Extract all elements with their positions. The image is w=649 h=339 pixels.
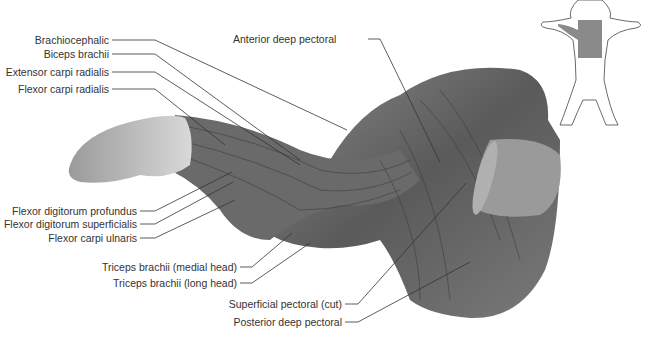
label-flexor-carpi-radialis: Flexor carpi radialis	[18, 83, 109, 95]
label-brachiocephalic: Brachiocephalic	[35, 34, 109, 46]
label-flexor-carpi-ulnaris: Flexor carpi ulnaris	[48, 232, 137, 244]
label-anterior-deep-pectoral: Anterior deep pectoral	[233, 33, 336, 45]
label-triceps-medial: Triceps brachii (medial head)	[102, 261, 237, 273]
label-flexor-digitorum-superficialis: Flexor digitorum superficialis	[4, 218, 137, 230]
label-flexor-digitorum-profundus: Flexor digitorum profundus	[12, 205, 137, 217]
label-superficial-pectoral: Superficial pectoral (cut)	[229, 298, 342, 310]
label-triceps-long: Triceps brachii (long head)	[113, 277, 237, 289]
dog-inset	[541, 0, 640, 125]
label-posterior-deep-pectoral: Posterior deep pectoral	[233, 316, 342, 328]
paw	[69, 116, 192, 183]
label-biceps-brachii: Biceps brachii	[44, 48, 109, 60]
label-extensor-carpi-radialis: Extensor carpi radialis	[6, 66, 109, 78]
